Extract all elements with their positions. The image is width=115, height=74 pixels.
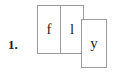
- letter-tile-l-label: l: [70, 22, 74, 37]
- letter-tile-f-label: f: [47, 22, 52, 37]
- letter-tile-f[interactable]: f: [37, 5, 61, 54]
- letter-tile-y-label: y: [90, 36, 98, 51]
- worksheet-item-figure: 1. f l y: [0, 0, 115, 74]
- letter-tile-group: f l y: [0, 0, 115, 74]
- letter-tile-y[interactable]: y: [81, 19, 107, 68]
